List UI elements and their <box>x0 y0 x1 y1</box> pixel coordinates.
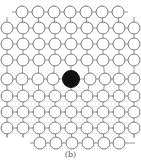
lattice-atom <box>113 54 125 66</box>
lattice-atom <box>1 22 13 34</box>
lattice-atom <box>1 106 13 118</box>
lattice-atom <box>33 122 45 134</box>
lattice-atom <box>113 106 125 118</box>
lattice-atom <box>81 38 93 50</box>
lattice-atom <box>113 137 125 149</box>
lattice-atom <box>32 73 44 85</box>
lattice-atom <box>16 73 28 85</box>
lattice-atom <box>128 73 140 85</box>
lattice-atom <box>33 106 45 118</box>
lattice-atom <box>50 137 62 149</box>
lattice-atom <box>33 90 45 102</box>
lattice-atom <box>48 6 60 18</box>
lattice-atom <box>97 106 109 118</box>
lattice-atom <box>17 106 29 118</box>
lattice-atom <box>33 38 45 50</box>
lattice-atom <box>49 90 61 102</box>
lattice-atom <box>65 90 77 102</box>
lattice-atom <box>80 6 92 18</box>
lattice-atom <box>1 122 13 134</box>
lattice-atom <box>65 106 77 118</box>
lattice-atom <box>97 38 109 50</box>
figure-caption: (b) <box>0 150 141 159</box>
lattice-atom <box>17 54 29 66</box>
lattice-atom <box>81 122 93 134</box>
lattice-atom <box>65 122 77 134</box>
lattice-atom <box>65 38 77 50</box>
lattice-atom <box>32 6 44 18</box>
lattice-atom <box>113 90 125 102</box>
lattice-atom <box>33 54 45 66</box>
lattice-atom <box>17 90 29 102</box>
lattice-atom <box>65 54 77 66</box>
lattice-atom <box>82 137 94 149</box>
lattice-atom <box>128 38 140 50</box>
lattice-atom <box>49 54 61 66</box>
lattice-atom <box>65 22 77 34</box>
lattice-atom <box>113 122 125 134</box>
lattice-atom <box>84 73 96 85</box>
lattice-atom <box>1 54 13 66</box>
lattice-atom <box>113 73 125 85</box>
lattice-atom <box>96 6 108 18</box>
lattice-atom <box>128 54 140 66</box>
lattice-atom <box>128 106 140 118</box>
lattice-atom <box>1 38 13 50</box>
lattice-atom <box>49 122 61 134</box>
lattice-diagram <box>0 0 141 166</box>
lattice-atom <box>49 38 61 50</box>
lattice-atom <box>33 22 45 34</box>
lattice-atom <box>17 122 29 134</box>
lattice-atom <box>97 122 109 134</box>
lattice-atom <box>128 90 140 102</box>
lattice-atom <box>99 73 111 85</box>
lattice-atom <box>97 54 109 66</box>
lattice-atoms <box>1 6 140 149</box>
lattice-atom <box>81 90 93 102</box>
lattice-atom <box>128 122 140 134</box>
lattice-atom <box>1 73 13 85</box>
lattice-atom <box>64 6 76 18</box>
lattice-atom <box>34 137 46 149</box>
lattice-atom <box>81 22 93 34</box>
defect-atom <box>63 71 80 88</box>
lattice-atom <box>113 22 125 34</box>
lattice-atom <box>49 106 61 118</box>
lattice-atom <box>128 22 140 34</box>
lattice-atom <box>66 137 78 149</box>
lattice-atom <box>17 38 29 50</box>
lattice-atom <box>81 106 93 118</box>
lattice-atom <box>49 22 61 34</box>
lattice-atom <box>97 90 109 102</box>
lattice-atom <box>113 38 125 50</box>
lattice-atom <box>98 137 110 149</box>
lattice-atom <box>16 6 28 18</box>
lattice-atom <box>47 73 59 85</box>
lattice-atom <box>112 6 124 18</box>
lattice-atom <box>1 90 13 102</box>
lattice-atom <box>81 54 93 66</box>
lattice-atom <box>17 22 29 34</box>
lattice-atom <box>97 22 109 34</box>
